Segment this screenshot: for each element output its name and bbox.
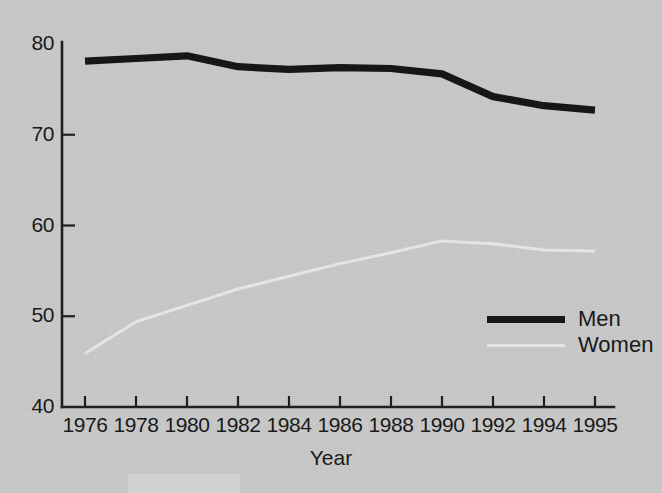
legend-swatch-women [487,344,565,347]
x-axis-ticks [85,396,595,407]
axes-group [62,42,614,407]
x-axis-title: Year [0,446,662,470]
data-series-group [85,56,595,354]
scan-artifact [128,474,240,493]
series-line-men [85,56,595,110]
y-axis-tick-label: 60 [6,213,54,237]
y-axis-ticks [62,135,75,317]
y-axis-tick-label: 80 [6,31,54,55]
series-line-women [85,241,595,354]
y-axis-tick-label: 50 [6,303,54,327]
y-axis-tick-label: 70 [6,122,54,146]
legend-label-women: Women [578,332,653,358]
x-axis-tick-label: 1995 [565,413,625,437]
y-axis-tick-label: 40 [6,394,54,418]
legend-label-men: Men [578,306,621,332]
chart-figure: 4050607080 19761978198019821984198619881… [0,0,662,493]
legend-swatch-men [487,316,565,323]
